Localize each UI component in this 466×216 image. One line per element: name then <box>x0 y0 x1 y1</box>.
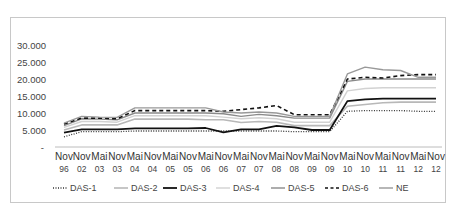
legend: DAS-1DAS-2DAS-3DAS-4DAS-5DAS-6NE <box>53 183 409 193</box>
x-tick-month: Mai <box>375 151 391 162</box>
legend-label: DAS-6 <box>342 183 369 193</box>
x-tick-year: 03 <box>112 164 122 174</box>
x-tick-month: Mai <box>198 151 214 162</box>
x-tick-month: Nov <box>250 151 268 162</box>
x-tick-month: Mai <box>233 151 249 162</box>
x-tick-year: 11 <box>378 164 387 174</box>
legend-label: DAS-5 <box>288 183 315 193</box>
y-axis: -5.00010.00015.00020.00025.00030.000 <box>17 40 46 153</box>
x-tick-year: 06 <box>219 164 229 174</box>
x-tick-month: Mai <box>304 151 320 162</box>
x-tick-year: 10 <box>360 164 370 174</box>
x-tick-month: Mai <box>269 151 285 162</box>
legend-item-das-4: DAS-4 <box>216 183 260 193</box>
x-tick-month: Nov <box>215 151 233 162</box>
legend-label: DAS-4 <box>233 183 260 193</box>
y-tick-label: 30.000 <box>17 40 46 51</box>
x-tick-year: 09 <box>307 164 317 174</box>
y-tick-label: 5.000 <box>22 125 46 136</box>
x-tick-year: 06 <box>201 164 211 174</box>
y-tick-label: 20.000 <box>17 74 46 85</box>
x-tick-year: 09 <box>325 164 335 174</box>
x-tick-month: Nov <box>321 151 339 162</box>
x-tick-month: Mai <box>410 151 426 162</box>
series-group <box>64 67 436 137</box>
x-tick-year: 11 <box>396 164 405 174</box>
x-tick-month: Mai <box>339 151 355 162</box>
legend-item-das-6: DAS-6 <box>325 183 369 193</box>
x-tick-month: Nov <box>427 151 445 162</box>
x-tick-month: Nov <box>392 151 410 162</box>
legend-item-ne: NE <box>379 183 409 193</box>
legend-label: DAS-3 <box>180 183 207 193</box>
legend-label: DAS-1 <box>70 183 97 193</box>
y-tick-label: 25.000 <box>17 57 46 68</box>
x-tick-month: Nov <box>179 151 197 162</box>
x-tick-year: 12 <box>431 164 441 174</box>
x-tick-month: Nov <box>356 151 374 162</box>
y-tick-label: 10.000 <box>17 108 46 119</box>
line-chart: -5.00010.00015.00020.00025.00030.000 Nov… <box>0 0 466 216</box>
x-tick-month: Mai <box>127 151 143 162</box>
x-tick-month: Nov <box>144 151 162 162</box>
x-tick-month: Mai <box>162 151 178 162</box>
legend-item-das-5: DAS-5 <box>271 183 315 193</box>
x-tick-year: 04 <box>148 164 158 174</box>
x-tick-year: 08 <box>272 164 282 174</box>
y-tick-label: - <box>41 142 44 153</box>
x-tick-year: 05 <box>166 164 176 174</box>
x-tick-year: 12 <box>414 164 424 174</box>
x-tick-year: 96 <box>59 164 69 174</box>
x-tick-year: 04 <box>130 164 140 174</box>
legend-item-das-3: DAS-3 <box>163 183 207 193</box>
legend-label: DAS-2 <box>131 183 158 193</box>
x-tick-year: 02 <box>77 164 87 174</box>
x-tick-month: Nov <box>55 151 73 162</box>
x-tick-month: Mai <box>91 151 107 162</box>
x-tick-year: 03 <box>95 164 105 174</box>
x-tick-year: 10 <box>343 164 353 174</box>
legend-label: NE <box>396 183 409 193</box>
x-tick-month: Nov <box>285 151 303 162</box>
y-tick-label: 15.000 <box>17 91 46 102</box>
x-axis: Nov96Nov02Mai03Nov03Mai04Nov04Mai05Nov05… <box>55 151 445 174</box>
legend-item-das-1: DAS-1 <box>53 183 97 193</box>
x-tick-year: 08 <box>290 164 300 174</box>
x-tick-month: Nov <box>73 151 91 162</box>
x-tick-year: 07 <box>254 164 264 174</box>
x-tick-year: 07 <box>236 164 246 174</box>
x-tick-month: Nov <box>108 151 126 162</box>
x-tick-year: 05 <box>183 164 193 174</box>
legend-item-das-2: DAS-2 <box>114 183 158 193</box>
